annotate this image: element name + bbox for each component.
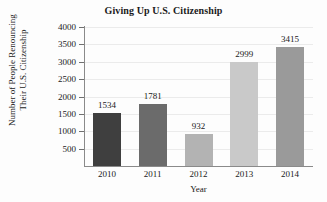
y-axis-line: [84, 26, 85, 167]
y-tick-mark: [79, 79, 84, 80]
x-tick-label: 2011: [130, 169, 176, 179]
y-tick-label: 2000: [36, 93, 76, 102]
y-axis-title-line-2: Their U.S. Citizenship: [18, 30, 29, 111]
plot-area: [84, 27, 313, 166]
y-tick-mark: [79, 131, 84, 132]
bar-chart-figure: Giving Up U.S. Citizenship Number of Peo…: [0, 0, 327, 202]
y-tick-label: 500: [36, 145, 76, 154]
bar-value-label: 1781: [130, 92, 176, 101]
y-axis-title: Number of People Renouncing Their U.S. C…: [0, 0, 36, 145]
bar-value-label: 1534: [84, 101, 130, 110]
y-tick-mark: [79, 27, 84, 28]
bar[interactable]: [139, 104, 167, 166]
y-tick-label: 3500: [36, 40, 76, 49]
bar-value-label: 3415: [267, 35, 313, 44]
y-tick-label: 2500: [36, 75, 76, 84]
y-tick-label: 1000: [36, 127, 76, 136]
y-tick-mark: [79, 149, 84, 150]
bar-value-label: 2999: [221, 50, 267, 59]
x-axis-line: [84, 166, 313, 167]
gridline: [84, 27, 313, 28]
y-tick-mark: [79, 114, 84, 115]
x-tick-label: 2012: [176, 169, 222, 179]
bar[interactable]: [185, 134, 213, 166]
x-axis-title: Year: [84, 184, 313, 194]
y-tick-mark: [79, 97, 84, 98]
x-tick-label: 2013: [221, 169, 267, 179]
x-tick-label: 2014: [267, 169, 313, 179]
gridline: [84, 44, 313, 45]
bar-value-label: 932: [176, 122, 222, 131]
y-tick-label: 1500: [36, 110, 76, 119]
y-tick-label: 3000: [36, 58, 76, 67]
x-tick-label: 2010: [84, 169, 130, 179]
bar[interactable]: [93, 113, 121, 166]
y-tick-mark: [79, 44, 84, 45]
y-tick-label: 4000: [36, 23, 76, 32]
y-axis-title-line-1: Number of People Renouncing: [7, 14, 18, 126]
chart-title: Giving Up U.S. Citizenship: [0, 5, 327, 16]
y-tick-mark: [79, 62, 84, 63]
bar[interactable]: [276, 47, 304, 166]
bar[interactable]: [230, 62, 258, 166]
